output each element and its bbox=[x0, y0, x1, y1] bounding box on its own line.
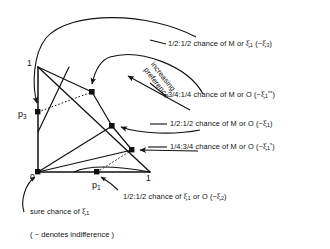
axis-label-origin: 0 bbox=[30, 172, 35, 182]
annotation-xi1ss-close: ) bbox=[272, 90, 275, 99]
point-center-marker bbox=[109, 123, 115, 129]
annotation-sure-equiv-sub: 1 bbox=[86, 210, 89, 216]
point-p1-marker bbox=[94, 169, 99, 174]
annotation-xi2-close: ) bbox=[224, 192, 227, 201]
annotation-xi2: 1/2:1/2 chance of ξ1 or O (~ξ2) bbox=[123, 192, 227, 201]
annotation-sure-pre: sure chance of bbox=[30, 207, 82, 216]
point-label-p3: p3 bbox=[18, 109, 27, 120]
point-right-mid-marker bbox=[129, 147, 134, 152]
annotation-xi3: 1/2:1/2 chance of M or ξ1 (~ξ3) bbox=[168, 39, 272, 48]
p3-subscript: 3 bbox=[23, 113, 27, 120]
chord-p3-steep bbox=[38, 67, 69, 132]
point-label-p1: p1 bbox=[92, 180, 101, 191]
dotted-p3-to-mid bbox=[38, 92, 92, 112]
hypotenuse bbox=[38, 67, 150, 172]
annotation-sure-chance: sure chance of ξ1 bbox=[30, 207, 89, 216]
tick-xi3 bbox=[150, 40, 166, 44]
point-upper-mid-marker bbox=[89, 89, 95, 95]
dotted-construction-lines bbox=[38, 92, 132, 172]
annotation-xi1: 1/2:1/2 chance of M or O (~ξ1) bbox=[170, 119, 273, 128]
indifference-note: ( ~ denotes indifference ) bbox=[30, 230, 114, 239]
annotation-xi2-pre: 1/2:1/2 chance of bbox=[123, 192, 184, 201]
annotation-xi1-pre: 1/2:1/2 chance of M or O (~ bbox=[170, 119, 263, 128]
chord-origin-to-center bbox=[38, 126, 112, 172]
axis-label-y-top: 1 bbox=[27, 58, 32, 68]
arrow-to-p1 bbox=[101, 177, 118, 190]
axis-label-x-right: 1 bbox=[146, 173, 151, 183]
annotation-xi3-open: (~ bbox=[253, 39, 262, 48]
annotation-xi1s-close: ) bbox=[272, 142, 275, 151]
point-origin-marker bbox=[35, 169, 40, 174]
point-p3-marker bbox=[35, 109, 40, 114]
annotation-xi2-mid: or O (~ bbox=[191, 192, 217, 201]
annotation-xi1-star: 1/4:3/4 chance of M or O (~ξ1*) bbox=[170, 142, 275, 151]
annotation-xi1s-pre: 1/4:3/4 chance of M or O (~ bbox=[170, 142, 263, 151]
indifference-lines bbox=[38, 67, 132, 172]
annotation-xi1ss-pre: 3/4:1/4 chance of M or O (~ bbox=[168, 90, 261, 99]
annotation-xi3-ratio: 1/2:1/2 chance of M or bbox=[168, 39, 246, 48]
annotation-xi3-close: ) bbox=[270, 39, 273, 48]
chord-apex-to-mid bbox=[38, 67, 92, 92]
annotation-xi1-close: ) bbox=[270, 119, 273, 128]
annotation-xi1-starstar: 3/4:1/4 chance of M or O (~ξ1**) bbox=[168, 90, 275, 99]
triangle-axes bbox=[38, 67, 150, 172]
p1-subscript: 1 bbox=[97, 184, 101, 191]
